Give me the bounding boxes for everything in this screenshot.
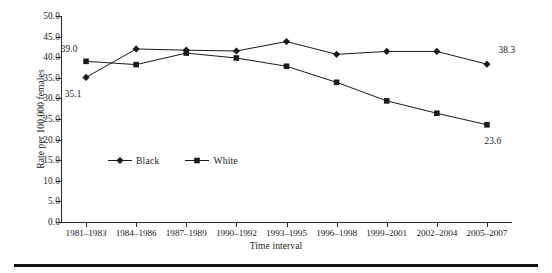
data-point-marker [233,47,240,54]
x-axis-tick [86,223,87,227]
data-label-23-6: 23.6 [485,136,502,146]
data-point-marker [483,61,490,68]
data-point-marker [484,122,490,128]
data-point-marker [82,74,89,81]
series-line-white [86,53,487,125]
x-axis-tick [387,223,388,227]
data-label-39-0: 39.0 [61,44,78,54]
legend-item-white[interactable]: White [185,155,237,166]
y-axis-tick [56,119,61,120]
series-line-black [86,42,487,78]
line-chart: Rate per 100,000 females 50.045.040.035.… [0,0,552,273]
x-axis-tick [186,223,187,227]
data-point-marker [333,51,340,58]
y-axis-tick [56,16,61,17]
data-point-marker [433,48,440,55]
data-point-marker [434,110,440,116]
y-axis-tick [56,98,61,99]
data-point-marker [234,55,240,61]
x-axis-tick [337,223,338,227]
data-point-marker [183,50,189,56]
legend-label: White [213,155,237,166]
y-axis-tick [56,181,61,182]
y-axis-tick [56,201,61,202]
y-axis-tick [56,37,61,38]
data-point-marker [133,62,139,68]
legend-marker-diamond-icon [108,155,132,166]
y-axis-tick [56,160,61,161]
x-axis-tick-label: 1987–1989 [166,228,207,238]
y-axis-tick-labels: 50.045.040.035.030.025.020.015.010.05.00… [22,0,60,273]
x-axis-tick-label: 1990–1992 [216,228,257,238]
y-axis-tick [56,222,61,223]
data-point-marker [384,98,390,104]
data-label-35-1: 35.1 [65,89,82,99]
data-point-marker [334,80,340,86]
x-axis-tick-label: 2005–2007 [466,228,507,238]
data-point-marker [133,45,140,52]
data-point-marker [283,38,290,45]
x-axis-tick-label: 1993–1995 [266,228,307,238]
y-axis-tick [56,78,61,79]
chart-legend: BlackWhite [108,155,238,166]
x-axis-tick-label: 1999–2001 [366,228,407,238]
legend-label: Black [136,155,159,166]
data-label-38-3: 38.3 [499,45,516,55]
x-axis-tick [136,223,137,227]
x-axis-tick-label: 2002–2004 [416,228,457,238]
bottom-divider [14,264,538,267]
y-axis-tick [56,140,61,141]
x-axis-tick [487,223,488,227]
data-point-marker [383,48,390,55]
x-axis-tick [287,223,288,227]
legend-item-black[interactable]: Black [108,155,159,166]
x-axis-tick [437,223,438,227]
x-axis-tick-label: 1996–1998 [316,228,357,238]
y-axis-tick [56,57,61,58]
x-axis-tick [236,223,237,227]
legend-marker-square-icon [185,155,209,166]
data-point-marker [83,59,89,65]
data-point-marker [183,47,190,54]
x-axis-tick-label: 1981–1983 [66,228,107,238]
data-point-marker [284,63,290,69]
x-axis-title: Time interval [0,241,552,251]
x-axis-tick-label: 1984–1986 [116,228,157,238]
